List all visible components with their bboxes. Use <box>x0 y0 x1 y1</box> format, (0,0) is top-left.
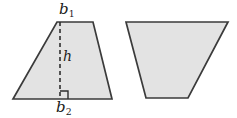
label-height-symbol: h <box>63 48 72 64</box>
trapezoid-figure: b1 b2 h <box>0 0 237 118</box>
figure-canvas <box>0 0 237 118</box>
right-trapezoid-shape <box>126 22 228 98</box>
label-top-base: b1 <box>59 2 75 17</box>
label-bottom-base: b2 <box>56 100 72 115</box>
label-bottom-base-symbol: b <box>56 98 66 116</box>
label-bottom-base-subscript: 2 <box>66 106 72 117</box>
label-top-base-symbol: b <box>59 0 69 18</box>
label-height: h <box>63 49 72 63</box>
label-top-base-subscript: 1 <box>69 8 75 19</box>
